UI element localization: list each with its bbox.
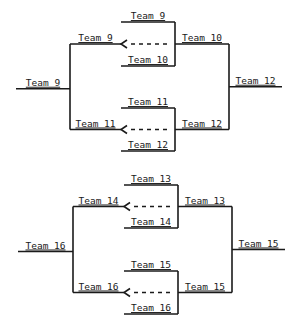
consolation-winner-label: Team 9 xyxy=(26,77,61,88)
team-label: Team 9 xyxy=(131,10,166,21)
consolation-winner-label: Team 16 xyxy=(25,240,65,251)
winner-label: Team 13 xyxy=(185,195,225,206)
consolation-label: Team 14 xyxy=(78,195,118,206)
team-label: Team 12 xyxy=(128,139,168,150)
final-winner-label: Team 15 xyxy=(238,238,278,249)
arrow-left-icon xyxy=(121,126,127,134)
winner-label: Team 15 xyxy=(185,281,225,292)
arrow-left-icon xyxy=(121,40,127,48)
arrow-left-icon xyxy=(124,289,130,297)
bracket-diagram: Team 9Team 10Team 10Team 9Team 11Team 12… xyxy=(0,0,303,330)
consolation-label: Team 11 xyxy=(75,118,115,129)
team-label: Team 16 xyxy=(131,302,171,313)
arrow-left-icon xyxy=(124,203,130,211)
team-label: Team 10 xyxy=(128,54,168,65)
team-label: Team 14 xyxy=(131,216,171,227)
winner-label: Team 12 xyxy=(182,118,222,129)
consolation-label: Team 16 xyxy=(78,281,118,292)
consolation-label: Team 9 xyxy=(78,32,113,43)
winner-label: Team 10 xyxy=(182,32,222,43)
final-winner-label: Team 12 xyxy=(235,75,275,86)
team-label: Team 11 xyxy=(128,96,168,107)
team-label: Team 15 xyxy=(131,259,171,270)
team-label: Team 13 xyxy=(131,173,171,184)
